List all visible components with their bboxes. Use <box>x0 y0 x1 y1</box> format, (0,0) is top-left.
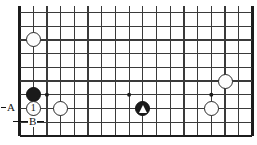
annotation-leader-lines <box>0 0 257 145</box>
point-label-b: B <box>28 116 37 127</box>
go-board-diagram: 1 AB <box>0 0 257 145</box>
screenshot-root: 1 AB <box>0 0 257 145</box>
point-label-a: A <box>6 102 16 113</box>
